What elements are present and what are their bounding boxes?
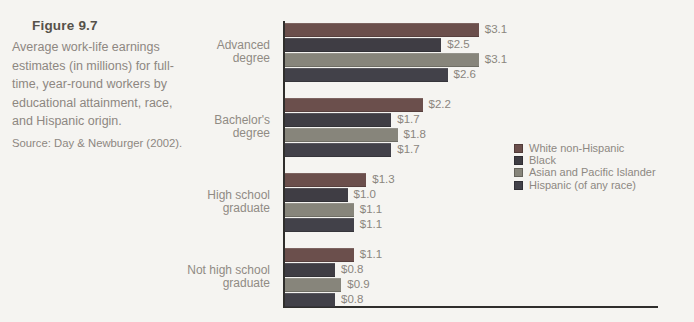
- value-label: $1.8: [404, 128, 426, 142]
- legend-item: Black: [514, 154, 656, 166]
- legend-label: Hispanic (of any race): [529, 180, 636, 191]
- figure-page: Figure 9.7 Average work-life earnings es…: [0, 0, 694, 322]
- bar: [285, 53, 479, 67]
- category-label: Bachelor's degree: [182, 114, 270, 141]
- legend-label: White non-Hispanic: [529, 143, 624, 154]
- value-label: $0.8: [341, 263, 363, 277]
- bar: [285, 23, 479, 37]
- legend-item: White non-Hispanic: [514, 142, 656, 154]
- bar: [285, 143, 391, 157]
- value-label: $0.8: [341, 293, 363, 307]
- legend-swatch: [514, 181, 523, 190]
- bar: [285, 128, 398, 142]
- category-label: High school graduate: [182, 189, 270, 216]
- value-label: $1.1: [360, 218, 382, 232]
- bar: [285, 68, 448, 82]
- legend-item: Hispanic (of any race): [514, 179, 656, 191]
- legend-swatch: [514, 144, 523, 153]
- category-label: Advanced degree: [182, 39, 270, 66]
- bar: [285, 203, 354, 217]
- value-label: $1.0: [354, 188, 376, 202]
- value-label: $3.1: [485, 53, 507, 67]
- legend: White non-HispanicBlackAsian and Pacific…: [514, 142, 656, 192]
- bar: [285, 278, 341, 292]
- bar: [285, 38, 441, 52]
- value-label: $0.9: [347, 278, 369, 292]
- value-label: $1.3: [372, 173, 394, 187]
- value-label: $3.1: [485, 23, 507, 37]
- bar: [285, 263, 335, 277]
- legend-swatch: [514, 156, 523, 165]
- legend-item: Asian and Pacific Islander: [514, 167, 656, 179]
- category-label: Not high school graduate: [182, 264, 270, 291]
- bar: [285, 98, 423, 112]
- value-label: $2.5: [447, 38, 469, 52]
- bar: [285, 188, 348, 202]
- bar: [285, 248, 354, 262]
- value-label: $1.7: [397, 113, 419, 127]
- bar: [285, 173, 366, 187]
- value-label: $2.6: [454, 68, 476, 82]
- x-axis-line: [283, 306, 658, 308]
- value-label: $1.1: [360, 248, 382, 262]
- bar: [285, 218, 354, 232]
- bar: [285, 293, 335, 307]
- bar: [285, 113, 391, 127]
- value-label: $2.2: [429, 98, 451, 112]
- legend-label: Asian and Pacific Islander: [529, 167, 656, 178]
- legend-label: Black: [529, 155, 556, 166]
- value-label: $1.7: [397, 143, 419, 157]
- value-label: $1.1: [360, 203, 382, 217]
- legend-swatch: [514, 168, 523, 177]
